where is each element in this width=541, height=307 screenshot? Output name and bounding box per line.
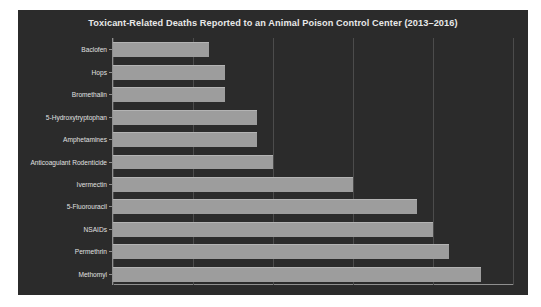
bar [113,132,257,147]
y-tick-label: 5-Fluorouracil [67,203,107,210]
y-tick-label: Anticoagulant Rodenticide [30,158,107,165]
y-tick-mark [109,162,113,163]
y-tick-label: Permethrin [75,248,107,255]
bar [113,222,433,237]
y-tick-mark [109,274,113,275]
bar [113,65,225,80]
y-tick-mark [109,206,113,207]
y-tick-label: NSAIDs [84,225,107,232]
bar-row [113,267,513,281]
y-tick-mark [109,117,113,118]
plot-area: BaclofenHopsBromethalin5-Hydroxytryptoph… [113,38,513,285]
y-tick-mark [109,49,113,50]
gridline [513,38,514,285]
y-tick-label: Bromethalin [72,91,107,98]
y-tick-label: Methomyl [78,270,107,277]
y-tick-mark [109,72,113,73]
chart-figure: Toxicant-Related Deaths Reported to an A… [18,10,528,295]
chart-title: Toxicant-Related Deaths Reported to an A… [18,18,528,28]
y-tick-label: Baclofen [81,46,107,53]
bar-row [113,177,513,191]
y-tick-label: 5-Hydroxytryptophan [46,113,107,120]
bar [113,110,257,125]
bar [113,177,353,192]
y-tick-mark [109,139,113,140]
y-tick-label: Ivermectin [77,180,107,187]
bar-row [113,155,513,169]
y-tick-mark [109,94,113,95]
y-tick-label: Amphetamines [63,136,107,143]
y-tick-mark [109,229,113,230]
bar-row [113,87,513,101]
bar [113,155,273,170]
bar-row [113,244,513,258]
bar-row [113,199,513,213]
bar [113,199,417,214]
y-tick-mark [109,251,113,252]
bar-row [113,65,513,79]
bar-row [113,222,513,236]
bar [113,87,225,102]
y-tick-mark [109,184,113,185]
bar [113,267,481,282]
bar-row [113,132,513,146]
y-tick-label: Hops [92,68,107,75]
bar-row [113,42,513,56]
bar [113,42,209,57]
bar [113,244,449,259]
bar-row [113,110,513,124]
